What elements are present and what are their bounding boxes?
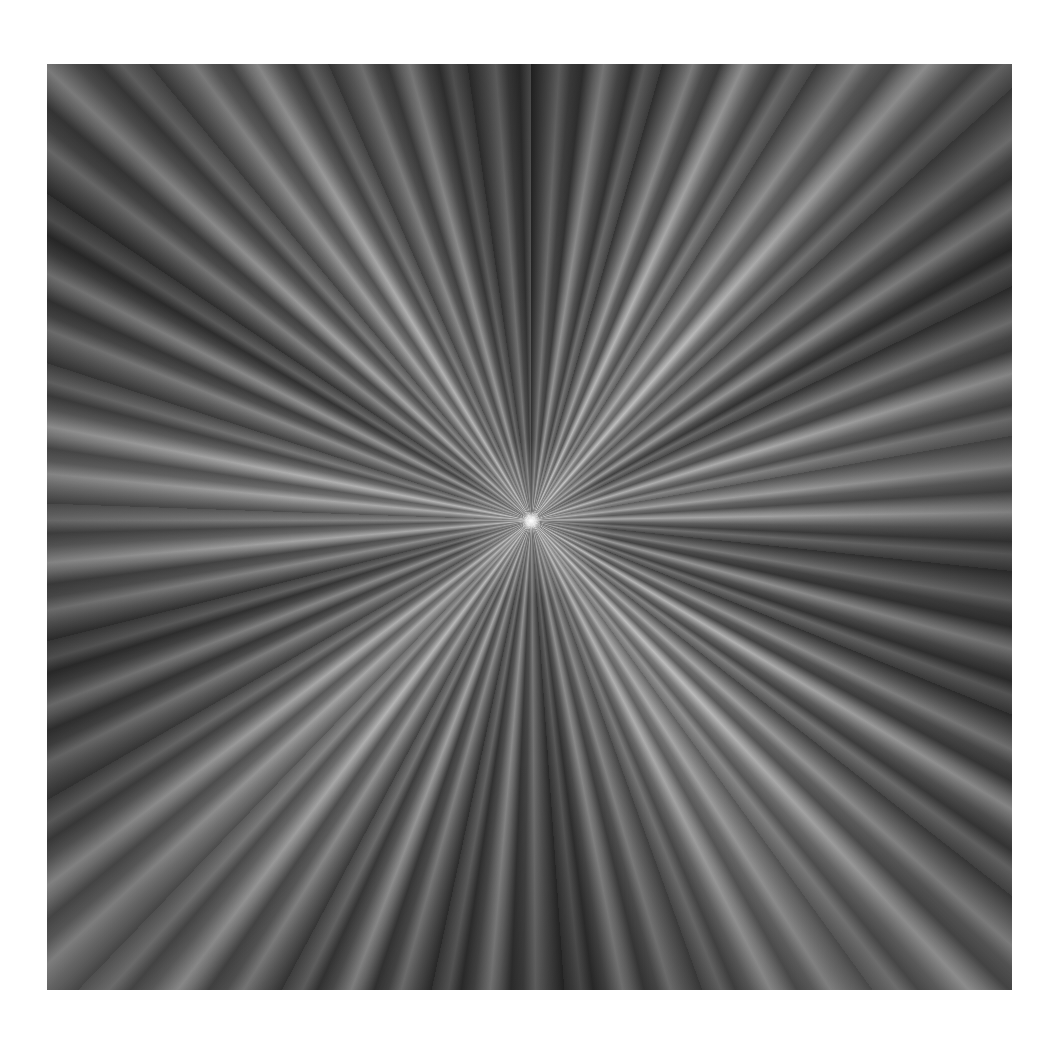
bright-core bbox=[521, 511, 541, 531]
radial-burst-image bbox=[47, 64, 1012, 990]
